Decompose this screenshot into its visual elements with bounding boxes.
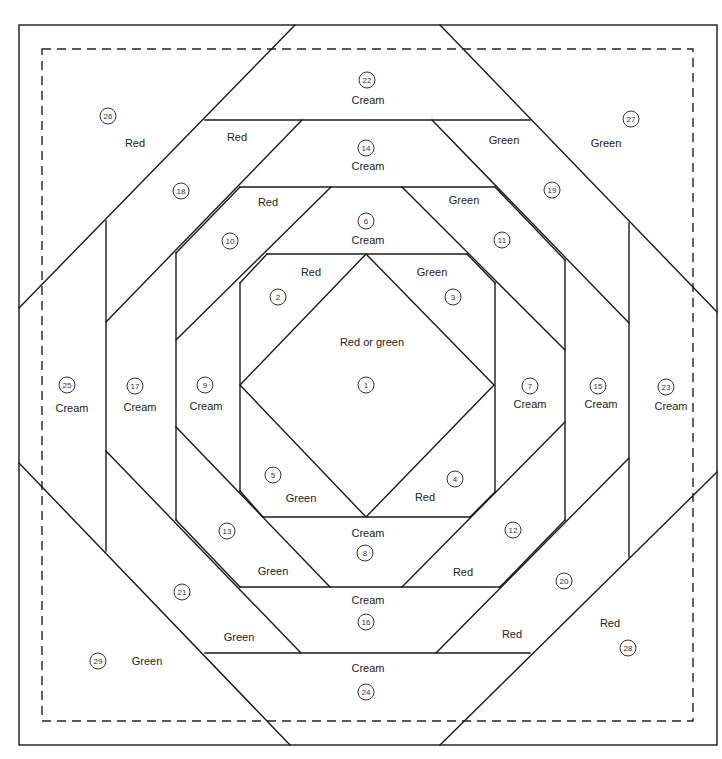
piece-number: 16: [362, 618, 371, 627]
piece-number: 13: [223, 527, 232, 536]
piece-number: 28: [624, 644, 633, 653]
piece-number: 20: [560, 577, 569, 586]
piece-color-label: Green: [132, 655, 163, 667]
piece-color-label: Green: [224, 631, 255, 643]
piece-number: 15: [594, 382, 603, 391]
piece-number: 9: [203, 381, 208, 390]
piece-number: 22: [363, 76, 372, 85]
piece-number: 29: [94, 657, 103, 666]
piece-29: 29Green: [90, 653, 162, 669]
piece-number: 2: [276, 293, 281, 302]
piece-color-label: Cream: [513, 398, 546, 410]
piece-color-label: Cream: [584, 398, 617, 410]
piece-number: 10: [226, 237, 235, 246]
piece-12: 12Red: [453, 522, 521, 578]
piece-color-label: Cream: [351, 94, 384, 106]
piece-number: 27: [627, 115, 636, 124]
piece-number: 3: [451, 293, 456, 302]
piece-1: 1Red or green: [340, 336, 404, 393]
piece-8: 8Cream: [351, 527, 384, 561]
piece-color-label: Cream: [189, 400, 222, 412]
piece-color-label: Cream: [351, 594, 384, 606]
piece-color-label: Red: [227, 131, 247, 143]
piece-13: 13Green: [219, 523, 288, 577]
piece-number: 11: [498, 236, 507, 245]
piece-number: 5: [271, 471, 276, 480]
piece-color-label: Red or green: [340, 336, 404, 348]
piece-10: 10Red: [222, 196, 278, 249]
quilt-block-diagram: 1Red or green2Red3Green4Red5Green6Cream7…: [0, 0, 722, 759]
piece-16: 16Cream: [351, 594, 384, 630]
piece-number: 7: [528, 382, 533, 391]
piece-number: 8: [363, 549, 368, 558]
piece-color-label: Red: [502, 628, 522, 640]
piece-11: 11Green: [449, 194, 510, 248]
piece-number: 23: [662, 383, 671, 392]
piece-number: 17: [131, 382, 140, 391]
piece-number: 26: [104, 112, 113, 121]
piece-number: 21: [178, 588, 187, 597]
piece-2: 2Red: [270, 266, 321, 305]
piece-color-label: Red: [415, 491, 435, 503]
piece-4: 4Red: [415, 471, 463, 503]
piece-number: 4: [453, 475, 458, 484]
piece-9: 9Cream: [189, 377, 222, 412]
piece-28: 28Red: [600, 617, 636, 656]
piece-color-label: Red: [453, 566, 473, 578]
piece-color-label: Green: [286, 492, 317, 504]
piece-color-label: Green: [591, 137, 622, 149]
piece-number: 1: [364, 381, 369, 390]
piece-24: 24Cream: [351, 662, 384, 700]
piece-color-label: Cream: [351, 662, 384, 674]
piece-5: 5Green: [265, 467, 316, 504]
piece-22: 22Cream: [351, 72, 384, 106]
piece-7: 7Cream: [513, 378, 546, 410]
piece-25: 25Cream: [55, 377, 88, 414]
piece-color-label: Cream: [351, 527, 384, 539]
piece-19: 19Green: [489, 134, 560, 198]
piece-color-label: Red: [600, 617, 620, 629]
piece-number: 6: [364, 217, 369, 226]
piece-color-label: Green: [489, 134, 520, 146]
piece-color-label: Green: [449, 194, 480, 206]
piece-3: 3Green: [417, 266, 461, 305]
piece-number: 14: [362, 144, 371, 153]
piece-20: 20Red: [502, 573, 572, 640]
piece-color-label: Cream: [123, 401, 156, 413]
piece-color-label: Red: [125, 137, 145, 149]
piece-color-label: Green: [258, 565, 289, 577]
piece-color-label: Cream: [351, 160, 384, 172]
piece-26: 26Red: [100, 108, 145, 149]
piece-color-label: Cream: [351, 234, 384, 246]
piece-labels: 1Red or green2Red3Green4Red5Green6Cream7…: [55, 72, 687, 700]
piece-27: 27Green: [591, 111, 639, 149]
piece-17: 17Cream: [123, 378, 156, 413]
piece-number: 25: [63, 381, 72, 390]
piece-6: 6Cream: [351, 213, 384, 246]
piece-number: 18: [177, 187, 186, 196]
piece-number: 12: [509, 526, 518, 535]
piece-color-label: Red: [258, 196, 278, 208]
piece-15: 15Cream: [584, 378, 617, 410]
piece-color-label: Cream: [55, 402, 88, 414]
piece-number: 19: [548, 186, 557, 195]
piece-color-label: Red: [301, 266, 321, 278]
piece-number: 24: [362, 688, 371, 697]
piece-14: 14Cream: [351, 140, 384, 172]
piece-23: 23Cream: [654, 379, 687, 412]
piece-color-label: Green: [417, 266, 448, 278]
piece-color-label: Cream: [654, 400, 687, 412]
